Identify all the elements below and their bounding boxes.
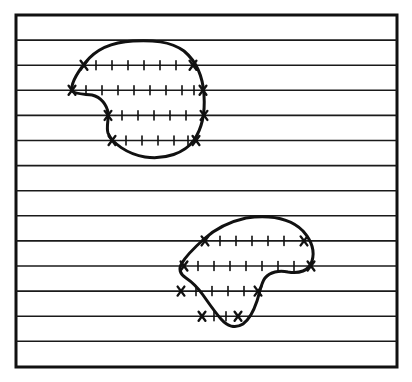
lower-region-outline	[180, 217, 313, 327]
region-outline-layer	[72, 41, 313, 327]
scanline-region-diagram	[0, 0, 412, 382]
figure-container: Scan-line traversal of two closed region…	[0, 0, 412, 382]
